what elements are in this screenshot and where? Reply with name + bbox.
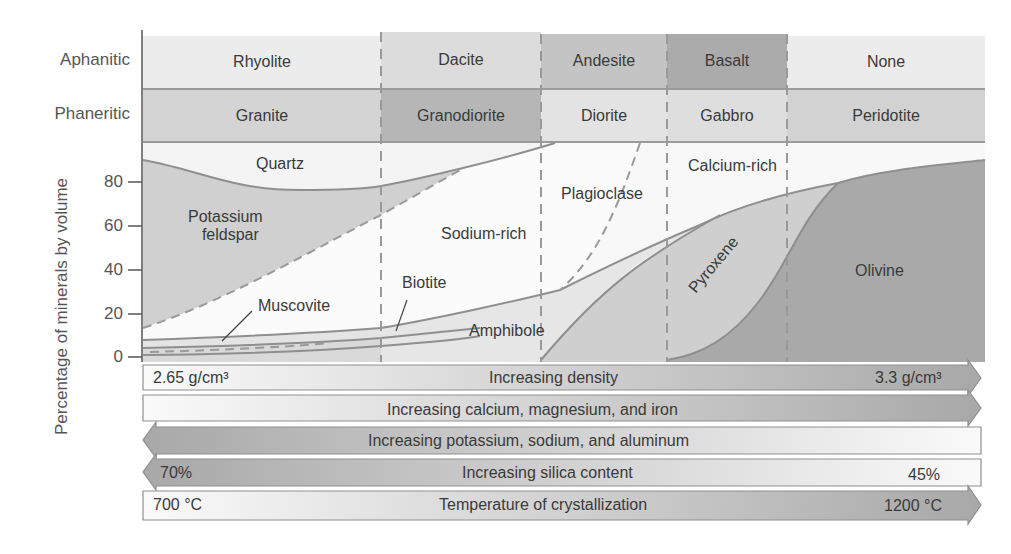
label-calcium-rich: Calcium-rich [688,157,777,175]
label-olivine: Olivine [855,262,904,280]
label-plagioclase: Plagioclase [561,185,643,203]
label-sodium-rich: Sodium-rich [441,225,526,243]
y-tick-0: 0 [83,347,123,367]
label-muscovite: Muscovite [258,297,330,315]
y-axis-label: Percentage of minerals by volume [52,178,72,435]
y-tick-80: 80 [83,172,123,192]
label-biotite: Biotite [402,274,446,292]
label-quartz: Quartz [256,155,304,173]
y-tick-40: 40 [83,260,123,280]
label-potassium-feldspar: Potassium feldspar [188,208,263,245]
label-amphibole: Amphibole [469,322,545,340]
y-tick-60: 60 [83,216,123,236]
y-tick-20: 20 [83,304,123,324]
